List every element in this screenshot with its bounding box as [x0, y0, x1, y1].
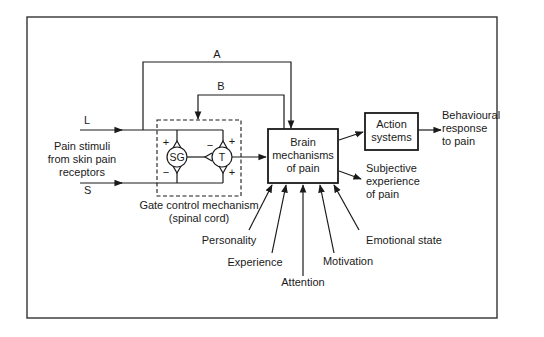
influence-attention: Attention	[281, 276, 324, 288]
svg-text:Behavioural: Behavioural	[442, 109, 500, 121]
svg-text:Gate control mechanism: Gate control mechanism	[139, 199, 258, 211]
svg-text:Brain: Brain	[290, 136, 316, 148]
path-b-label: B	[217, 80, 224, 92]
svg-text:to pain: to pain	[442, 135, 475, 147]
svg-text:of pain: of pain	[366, 188, 399, 200]
svg-text:of pain: of pain	[286, 162, 319, 174]
emotional-state-arrow	[334, 185, 359, 230]
svg-text:receptors: receptors	[59, 166, 105, 178]
influence-emotional-state: Emotional state	[366, 234, 442, 246]
action-systems-box: Action systems	[365, 113, 418, 150]
svg-text:from skin pain: from skin pain	[48, 153, 116, 165]
svg-text:(spinal cord): (spinal cord)	[169, 212, 230, 224]
brain-to-action-arrow	[339, 132, 363, 140]
path-a-label: A	[213, 48, 221, 60]
t-cell: T	[212, 147, 232, 167]
svg-text:response: response	[442, 122, 487, 134]
s-label: S	[84, 184, 91, 196]
influence-personality: Personality	[202, 234, 257, 246]
gate-control-diagram: A B L S Pain stimuli from skin pain rece…	[0, 0, 544, 337]
motivation-arrow	[320, 185, 334, 253]
pain-stimuli-label: Pain stimuli from skin pain receptors	[48, 140, 116, 178]
svg-text:+: +	[229, 135, 235, 147]
influence-experience: Experience	[227, 256, 282, 268]
sg-cell: SG	[167, 147, 187, 167]
subjective-experience-label: Subjective experience of pain	[366, 162, 420, 200]
svg-text:Pain stimuli: Pain stimuli	[54, 140, 110, 152]
svg-text:experience: experience	[366, 175, 420, 187]
brain-to-subjective-arrow	[339, 171, 361, 179]
l-label: L	[84, 114, 90, 126]
influence-motivation: Motivation	[323, 255, 373, 267]
experience-arrow	[272, 185, 286, 253]
l-fibre-input: L	[80, 114, 223, 141]
brain-mechanisms-box: Brain mechanisms of pain	[268, 129, 338, 183]
svg-text:−: −	[207, 139, 213, 151]
svg-text:systems: systems	[371, 131, 412, 143]
gate-caption: Gate control mechanism (spinal cord)	[139, 199, 258, 224]
svg-text:+: +	[229, 166, 235, 178]
svg-text:mechanisms: mechanisms	[272, 149, 334, 161]
svg-text:T: T	[219, 151, 226, 163]
svg-text:Subjective: Subjective	[366, 162, 417, 174]
svg-text:SG: SG	[169, 151, 184, 163]
behavioural-response-label: Behavioural response to pain	[442, 109, 500, 147]
svg-text:−: −	[163, 166, 169, 178]
svg-text:+: +	[163, 136, 169, 148]
svg-text:Action: Action	[376, 118, 407, 130]
